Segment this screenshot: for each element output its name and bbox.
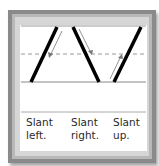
slant-right-stroke <box>73 27 99 82</box>
label-line1: Slant <box>113 116 140 129</box>
arrow-up-right-icon <box>118 54 123 59</box>
label-line2: up. <box>113 129 140 142</box>
slant-left-stroke <box>31 27 57 82</box>
label-slant-left: Slant left. <box>26 116 53 142</box>
label-line1: Slant <box>71 116 99 129</box>
arrow-down-left-icon <box>48 52 53 58</box>
label-line2: left. <box>26 129 53 142</box>
label-line2: right. <box>71 129 99 142</box>
label-slant-up: Slant up. <box>113 116 140 142</box>
label-line1: Slant <box>26 116 53 129</box>
label-slant-right: Slant right. <box>71 116 99 142</box>
